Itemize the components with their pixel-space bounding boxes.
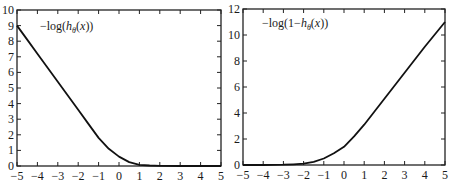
x-tick-label: 1 bbox=[136, 169, 142, 183]
y-tick-label: 2 bbox=[234, 132, 240, 146]
x-tick-label: −4 bbox=[31, 169, 44, 183]
y-tick-label: 2 bbox=[8, 128, 14, 142]
y-tick-label: 5 bbox=[8, 81, 14, 95]
right-plot: −5−4−3−2−1012345024681012−log(1−hθ(x)) bbox=[228, 2, 448, 182]
x-tick-label: −1 bbox=[317, 168, 330, 182]
x-tick-label: −2 bbox=[297, 168, 310, 182]
curve-legend: −log(hθ(x)) bbox=[40, 19, 93, 35]
left-plot: −5−4−3−2−1012345012345678910−log(hθ(x)) bbox=[2, 3, 224, 183]
plot-frame bbox=[17, 10, 221, 166]
x-tick-label: 3 bbox=[402, 168, 408, 182]
x-tick-label: 0 bbox=[341, 168, 347, 182]
x-tick-label: 4 bbox=[198, 169, 204, 183]
chart-canvas: −5−4−3−2−1012345012345678910−log(hθ(x))−… bbox=[0, 0, 454, 193]
y-tick-label: 4 bbox=[234, 106, 240, 120]
curve-legend: −log(1−hθ(x)) bbox=[262, 16, 328, 32]
y-tick-label: 10 bbox=[228, 28, 240, 42]
y-tick-label: 8 bbox=[234, 54, 240, 68]
y-tick-label: 6 bbox=[234, 80, 240, 94]
y-tick-label: 6 bbox=[8, 65, 14, 79]
y-tick-label: 3 bbox=[8, 112, 14, 126]
x-tick-label: 4 bbox=[422, 168, 428, 182]
x-tick-label: 0 bbox=[116, 169, 122, 183]
x-tick-label: 2 bbox=[157, 169, 163, 183]
x-tick-label: −4 bbox=[257, 168, 270, 182]
x-tick-label: −3 bbox=[277, 168, 290, 182]
x-tick-label: 5 bbox=[218, 169, 224, 183]
y-tick-label: 0 bbox=[8, 159, 14, 173]
curve-line bbox=[243, 22, 445, 165]
y-tick-label: 12 bbox=[228, 2, 240, 16]
x-tick-label: 2 bbox=[381, 168, 387, 182]
curve-line bbox=[17, 26, 221, 166]
y-tick-label: 0 bbox=[234, 158, 240, 172]
x-tick-label: 1 bbox=[361, 168, 367, 182]
y-tick-label: 7 bbox=[8, 50, 14, 64]
plot-frame bbox=[243, 9, 445, 165]
x-tick-label: −3 bbox=[51, 169, 64, 183]
x-tick-label: 5 bbox=[442, 168, 448, 182]
x-tick-label: −1 bbox=[92, 169, 105, 183]
y-tick-label: 9 bbox=[8, 19, 14, 33]
x-tick-label: 3 bbox=[177, 169, 183, 183]
y-tick-label: 4 bbox=[8, 97, 14, 111]
y-tick-label: 1 bbox=[8, 143, 14, 157]
x-tick-label: −2 bbox=[72, 169, 85, 183]
y-tick-label: 10 bbox=[2, 3, 14, 17]
y-tick-label: 8 bbox=[8, 34, 14, 48]
